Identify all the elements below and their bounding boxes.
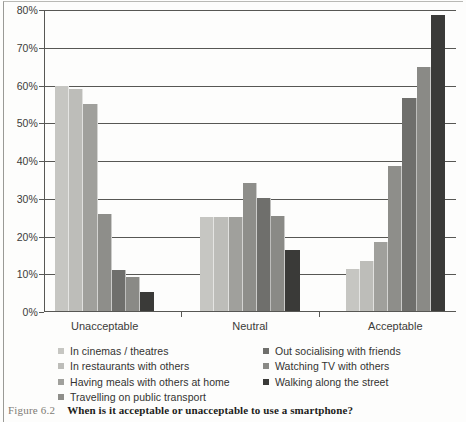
- legend-item: In restaurants with others: [58, 360, 263, 373]
- legend-item: Travelling on public transport: [58, 391, 263, 404]
- bar: [402, 98, 416, 312]
- legend-column-right: Out socialising with friendsWatching TV …: [263, 344, 401, 404]
- bar: [243, 183, 257, 312]
- legend-item: In cinemas / theatres: [58, 344, 263, 357]
- legend-swatch-icon: [58, 348, 64, 354]
- bar: [271, 216, 285, 312]
- bar: [55, 86, 69, 313]
- legend-label: In restaurants with others: [70, 360, 189, 372]
- y-tick-label: 70%: [17, 42, 38, 54]
- plot-canvas: 0%10%20%30%40%50%60%70%80%: [44, 10, 456, 312]
- legend-item: Watching TV with others: [263, 360, 401, 373]
- y-tick-mark: [39, 48, 44, 49]
- bar: [98, 214, 112, 312]
- bar: [285, 250, 299, 312]
- bar: [388, 166, 402, 312]
- legend-label: Out socialising with friends: [275, 345, 401, 357]
- bar: [431, 15, 445, 312]
- figure-caption-text: When is it acceptable or unacceptable to…: [67, 404, 353, 416]
- bar: [69, 89, 83, 312]
- bar: [214, 217, 228, 312]
- y-tick-mark: [39, 161, 44, 162]
- y-tick-mark: [39, 312, 44, 313]
- legend-item: Out socialising with friends: [263, 344, 401, 357]
- x-axis-label-acceptable: Acceptable: [368, 320, 422, 332]
- scanned-page: 0%10%20%30%40%50%60%70%80% UnacceptableN…: [0, 0, 466, 422]
- y-tick-mark: [39, 199, 44, 200]
- legend-item: Walking along the street: [263, 375, 401, 388]
- legend-label: Travelling on public transport: [70, 391, 206, 403]
- figure-chart-area: 0%10%20%30%40%50%60%70%80% UnacceptableN…: [0, 0, 466, 400]
- bar-group: [55, 10, 154, 312]
- bar: [112, 270, 126, 312]
- bar: [200, 217, 214, 312]
- x-axis-line: [44, 311, 456, 312]
- legend-label: Having meals with others at home: [70, 376, 230, 388]
- legend-column-left: In cinemas / theatresIn restaurants with…: [58, 344, 263, 404]
- y-tick-label: 80%: [17, 4, 38, 16]
- bar-group: [346, 10, 445, 312]
- y-tick-label: 0%: [23, 306, 38, 318]
- category-separator: [319, 312, 320, 317]
- bar: [374, 242, 388, 312]
- x-axis-label-neutral: Neutral: [232, 320, 267, 332]
- x-axis-label-unacceptable: Unacceptable: [71, 320, 138, 332]
- y-tick-label: 20%: [17, 231, 38, 243]
- legend-swatch-icon: [263, 348, 269, 354]
- y-tick-mark: [39, 86, 44, 87]
- y-tick-label: 40%: [17, 155, 38, 167]
- y-axis-line: [44, 10, 45, 312]
- legend-label: In cinemas / theatres: [70, 345, 169, 357]
- bar: [360, 261, 374, 312]
- figure-caption: Figure 6.2 When is it acceptable or unac…: [8, 404, 353, 416]
- y-tick-label: 60%: [17, 80, 38, 92]
- y-tick-label: 30%: [17, 193, 38, 205]
- legend-swatch-icon: [58, 394, 64, 400]
- bar: [417, 67, 431, 312]
- legend-swatch-icon: [263, 363, 269, 369]
- legend-item: Having meals with others at home: [58, 375, 263, 388]
- bar: [346, 269, 360, 312]
- bar: [257, 198, 271, 312]
- y-tick-mark: [39, 10, 44, 11]
- legend-label: Walking along the street: [275, 376, 388, 388]
- bar: [140, 292, 154, 312]
- y-tick-label: 50%: [17, 117, 38, 129]
- figure-number: Figure 6.2: [8, 404, 55, 416]
- y-tick-mark: [39, 237, 44, 238]
- plot-area: 0%10%20%30%40%50%60%70%80%: [44, 10, 456, 312]
- bar: [229, 217, 243, 312]
- y-tick-mark: [39, 274, 44, 275]
- y-tick-mark: [39, 123, 44, 124]
- bar: [83, 104, 97, 312]
- bar: [126, 277, 140, 312]
- chart-legend: In cinemas / theatresIn restaurants with…: [58, 344, 458, 404]
- y-tick-label: 10%: [17, 268, 38, 280]
- legend-swatch-icon: [263, 379, 269, 385]
- category-separator: [181, 312, 182, 317]
- legend-swatch-icon: [58, 363, 64, 369]
- legend-label: Watching TV with others: [275, 360, 389, 372]
- legend-swatch-icon: [58, 379, 64, 385]
- bar-group: [200, 10, 299, 312]
